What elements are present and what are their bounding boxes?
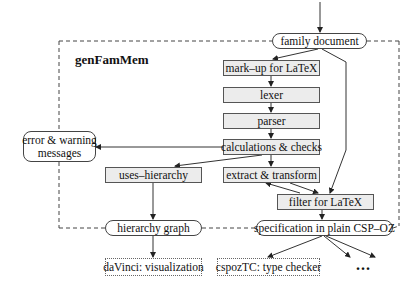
- calculations-node[interactable]: calculations & checks: [223, 139, 320, 155]
- node-label: specification in plain CSP–OZ: [254, 222, 395, 235]
- node-label: lexer: [260, 89, 283, 102]
- more-outputs-ellipsis: ...: [356, 256, 371, 274]
- node-label: daVinci: visualization: [103, 261, 204, 274]
- davinci-node[interactable]: daVinci: visualization: [105, 258, 202, 276]
- node-label: calculations & checks: [221, 141, 322, 154]
- uses-hierarchy-node[interactable]: uses–hierarchy: [105, 167, 202, 183]
- node-label-line1: error & warning: [22, 134, 97, 147]
- filter-latex-node[interactable]: filter for LaTeX: [277, 194, 374, 210]
- hierarchy-graph-node[interactable]: hierarchy graph: [105, 220, 202, 236]
- node-label: hierarchy graph: [117, 222, 189, 235]
- node-label: parser: [257, 115, 285, 128]
- node-label: extract & transform: [226, 169, 317, 182]
- node-label: filter for LaTeX: [289, 196, 362, 209]
- frame-title: genFamMem: [75, 52, 149, 68]
- lexer-node[interactable]: lexer: [223, 87, 320, 103]
- node-label-line2: messages: [38, 147, 81, 160]
- specification-node[interactable]: specification in plain CSP–OZ: [256, 220, 393, 236]
- error-warning-node[interactable]: error & warning messages: [23, 131, 96, 162]
- cspoztc-node[interactable]: cspozTC: type checker: [217, 258, 320, 276]
- node-label: cspozTC: type checker: [216, 261, 321, 274]
- node-label: uses–hierarchy: [119, 169, 188, 182]
- markup-node[interactable]: mark–up for LaTeX: [223, 60, 320, 76]
- node-label: family document: [280, 35, 358, 48]
- node-label: mark–up for LaTeX: [226, 62, 318, 75]
- extract-transform-node[interactable]: extract & transform: [223, 167, 320, 183]
- family-document-node[interactable]: family document: [272, 33, 367, 49]
- parser-node[interactable]: parser: [223, 113, 320, 129]
